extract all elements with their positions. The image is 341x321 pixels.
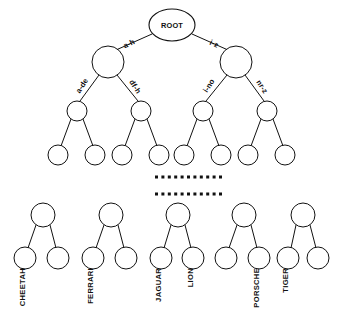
node-cheetah-leaf-right [47,247,69,269]
level2-nodes [67,101,277,121]
ellipsis-dot [181,176,184,179]
subtree-jaguar-lion: JAGUAR LION [150,203,204,302]
edge-tiger-parent-left [291,225,296,248]
upper-tree-edges [61,34,283,146]
ellipsis-dot [206,176,209,179]
leaf-node-8 [275,145,295,165]
ellipsis-dot [193,176,196,179]
node-tiger-leaf-right [307,247,329,269]
node-tiger-leaf-left [277,247,299,269]
node-lion-leaf [182,247,204,269]
node-level1-left [92,46,124,78]
subtree-porsche: PORSCHE [215,203,270,308]
leaf-label-tiger: TIGER [281,268,290,293]
ellipsis-dot [219,193,222,196]
edge-ferrari-parent-left [96,225,104,248]
level1-nodes [92,46,252,78]
edge-ferrari-parent-right [118,225,124,248]
edge-label-nr-z: nr-z [254,78,269,95]
node-jaguar-leaf [150,247,172,269]
leaf-node-1 [48,145,68,165]
edge-porsche-parent-left [229,225,237,248]
node-porsche-parent [232,203,256,227]
ellipsis-dot [161,193,164,196]
ellipsis-dot [187,193,190,196]
edge-label-a-de: a-de [74,76,90,94]
edge-df-h-to-l4 [147,119,157,146]
edge-tiger-parent-right [310,225,316,248]
ellipsis-dot [181,193,184,196]
ellipsis-upper-row [155,176,222,179]
subtree-cheetah: CHEETAH [14,203,69,306]
leaf-label-cheetah: CHEETAH [18,268,27,306]
node-nr-z [257,101,277,121]
leaf-node-4 [149,145,169,165]
ellipsis-dot [206,193,209,196]
node-level1-right [220,46,252,78]
node-ferrari-leaf-right [115,247,137,269]
ellipsis-dot [219,176,222,179]
leaf-node-7 [238,145,258,165]
edge-label-a-h: a-h [122,37,137,50]
ellipsis-lower-row [155,193,222,196]
ellipsis-dot [174,193,177,196]
ellipsis-dot [161,176,164,179]
node-jaguar-lion-parent [166,203,190,227]
leaf-label-ferrari: FERRARI [86,268,95,304]
edge-jaguar-parent-right [185,225,191,248]
node-porsche-leaf-left [215,247,237,269]
node-df-h [131,101,151,121]
node-i-no [193,101,213,121]
root-node-label: ROOT [161,21,183,30]
leaf-node-2 [85,145,105,165]
edge-nr-z-to-l8 [273,119,283,146]
node-cheetah-leaf-left [14,247,36,269]
edge-jaguar-parent-left [164,225,171,248]
ellipsis-dot [155,193,158,196]
ellipsis-dot [213,176,216,179]
ellipsis-dot [187,176,190,179]
edge-label-df-h: df-h [127,78,143,95]
ellipsis-dot [200,176,203,179]
edge-label-i-no: i-no [201,77,216,94]
edge-porsche-parent-right [251,225,257,248]
node-porsche-leaf-right [248,247,270,269]
leaf-label-jaguar: JAGUAR [154,268,163,302]
root-node: ROOT [149,9,195,41]
edge-df-h-to-l3 [125,119,135,146]
level3-leaf-nodes [48,145,295,165]
ellipsis-dot [168,176,171,179]
edge-a-de-to-l1 [61,119,71,146]
subtree-tiger: TIGER [277,203,329,293]
node-a-de [67,101,87,121]
trie-diagram: ROOT a-h i-z a-de df-h [0,0,341,321]
ellipsis-dot [155,176,158,179]
leaf-node-3 [112,145,132,165]
ellipsis-dot [213,193,216,196]
node-cheetah-parent [31,203,55,227]
edge-i-no-to-l6 [209,119,219,146]
edge-nr-z-to-l7 [251,119,261,146]
ellipsis-dot [193,193,196,196]
edge-i-no-to-l5 [187,119,197,146]
leaf-label-porsche: PORSCHE [252,268,261,308]
edge-cheetah-parent-right [50,225,56,248]
edge-a-de-to-l2 [83,119,93,146]
edge-label-i-z: i-z [208,38,220,50]
ellipsis-dot [174,176,177,179]
edge-cheetah-parent-left [28,225,36,248]
ellipsis-dot [168,193,171,196]
subtree-ferrari: FERRARI [82,203,137,304]
diagram-canvas: ROOT a-h i-z a-de df-h [0,0,341,321]
leaf-node-5 [174,145,194,165]
leaf-label-lion: LION [186,268,195,287]
ellipsis-dot [200,193,203,196]
node-ferrari-parent [99,203,123,227]
leaf-node-6 [211,145,231,165]
node-tiger-parent [291,203,315,227]
node-ferrari-leaf-left [82,247,104,269]
